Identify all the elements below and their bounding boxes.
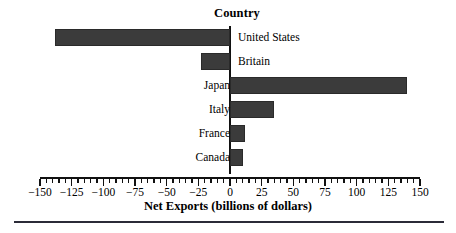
chart-title: Country — [162, 6, 312, 20]
axis-tick-minor — [109, 179, 110, 183]
axis-tick-minor — [115, 179, 116, 183]
axis-tick-minor — [255, 179, 256, 183]
axis-tick-minor — [223, 179, 224, 183]
axis-tick-minor — [77, 179, 78, 183]
bar-row: Japan — [0, 74, 456, 98]
bar — [201, 53, 230, 70]
axis-tick-minor — [65, 179, 66, 183]
axis-tick-minor — [274, 179, 275, 183]
bar-row: Italy — [0, 98, 456, 122]
axis-tick-minor — [337, 179, 338, 183]
category-label: Japan — [204, 77, 230, 94]
axis-tick-minor — [242, 179, 243, 183]
axis-tick-minor — [280, 179, 281, 183]
axis-tick-minor — [343, 179, 344, 183]
axis-tick-minor — [400, 179, 401, 183]
bar — [230, 101, 274, 118]
axis-tick-minor — [407, 179, 408, 183]
axis-tick-minor — [185, 179, 186, 183]
bar — [230, 149, 243, 166]
axis-tick-minor — [394, 179, 395, 183]
axis-tick-minor — [375, 179, 376, 183]
axis-tick-minor — [160, 179, 161, 183]
axis-tick-minor — [147, 179, 148, 183]
axis-tick-minor — [153, 179, 154, 183]
axis-tick-minor — [96, 179, 97, 183]
axis-tick-minor — [305, 179, 306, 183]
axis-tick-minor — [191, 179, 192, 183]
axis-tick-minor — [172, 179, 173, 183]
axis-tick-minor — [413, 179, 414, 183]
category-label: Italy — [209, 101, 230, 118]
bar — [230, 77, 407, 94]
axis-tick-minor — [128, 179, 129, 183]
plot-area: United StatesBritainJapanItalyFranceCana… — [0, 26, 456, 174]
axis-tick-minor — [312, 179, 313, 183]
category-label: Canada — [196, 149, 230, 166]
axis-tick-minor — [90, 179, 91, 183]
axis-tick-minor — [331, 179, 332, 183]
axis-tick-minor — [286, 179, 287, 183]
axis-tick-minor — [267, 179, 268, 183]
x-axis-title: Net Exports (billions of dollars) — [0, 199, 456, 214]
axis-tick-minor — [84, 179, 85, 183]
axis-tick-minor — [46, 179, 47, 183]
bar-row: Britain — [0, 50, 456, 74]
bottom-rule-divider — [14, 221, 444, 223]
axis-tick-label: 150 — [390, 185, 450, 199]
axis-tick-minor — [52, 179, 53, 183]
axis-tick-minor — [122, 179, 123, 183]
axis-tick-minor — [217, 179, 218, 183]
axis-tick-minor — [141, 179, 142, 183]
axis-tick-minor — [299, 179, 300, 183]
bar — [55, 29, 230, 46]
axis-tick-minor — [236, 179, 237, 183]
bar-row: France — [0, 122, 456, 146]
axis-tick-minor — [248, 179, 249, 183]
axis-tick-minor — [179, 179, 180, 183]
axis-tick-minor — [362, 179, 363, 183]
axis-tick-minor — [350, 179, 351, 183]
axis-tick-minor — [381, 179, 382, 183]
category-label: United States — [238, 29, 300, 46]
axis-tick-minor — [58, 179, 59, 183]
axis-tick-minor — [210, 179, 211, 183]
category-label: France — [199, 125, 230, 142]
bar-chart-figure: Country United StatesBritainJapanItalyFr… — [0, 0, 456, 233]
bar — [230, 125, 245, 142]
bar-row: Canada — [0, 146, 456, 170]
axis-tick-minor — [369, 179, 370, 183]
axis-tick-minor — [204, 179, 205, 183]
bar-row: United States — [0, 26, 456, 50]
category-label: Britain — [238, 53, 270, 70]
axis-tick-minor — [318, 179, 319, 183]
